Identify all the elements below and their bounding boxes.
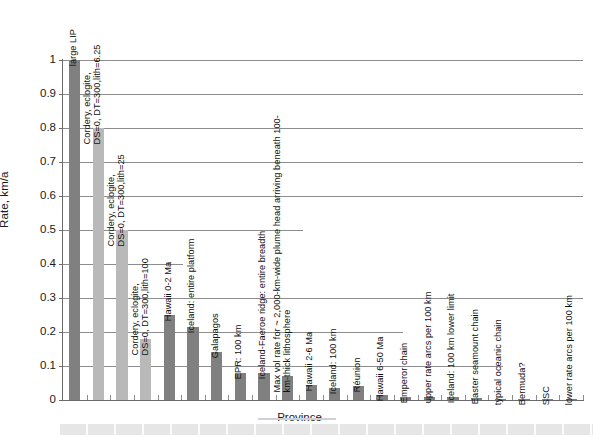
category-label: large LIP — [68, 29, 78, 66]
x-axis-separator — [110, 395, 111, 400]
x-axis-separator — [228, 395, 229, 400]
y-tick-label: 0.2 — [40, 326, 56, 338]
y-tick-mark — [59, 162, 63, 163]
category-label: Cordery, eclogite, DS=0, DT=300,lith=6.2… — [82, 44, 102, 144]
x-axis-separator — [465, 395, 466, 400]
x-axis-separator — [87, 395, 88, 400]
category-label: Bermuda? — [517, 362, 527, 405]
x-axis-separator — [205, 395, 206, 400]
y-tick-label: 0 — [50, 394, 56, 406]
category-label: Cordery, eclogite, DS=0, DT=300,lith=25 — [106, 154, 126, 246]
y-tick-label: 0.6 — [40, 190, 56, 202]
x-axis-separator — [418, 395, 419, 400]
x-axis-separator — [583, 395, 584, 400]
category-label: Galapagos — [210, 314, 220, 359]
category-label: Iceland: entire platform — [186, 238, 196, 333]
category-label: lower rate arcs per 100 km — [564, 295, 574, 405]
category-label: Hawaii 2-6 Ma — [304, 332, 314, 391]
x-axis-separator — [559, 395, 560, 400]
category-label: Iceland-Faeroe ridge: entire breadth — [257, 231, 267, 379]
plot-area: 00.10.20.30.40.50.60.70.80.91large LIPCo… — [63, 60, 583, 400]
y-tick-label: 0.9 — [40, 88, 56, 100]
y-tick-label: 1 — [50, 54, 56, 66]
y-tick-label: 0.4 — [40, 258, 56, 270]
x-axis-separator — [299, 395, 300, 400]
category-label: Iceland: 100 km lower limit — [446, 294, 456, 404]
y-tick-label: 0.8 — [40, 122, 56, 134]
gridline — [63, 196, 583, 197]
category-label: Emperor chain — [399, 343, 409, 403]
category-label: Hawaii 0-2 Ma — [162, 262, 172, 321]
gridline — [63, 94, 583, 95]
bar[interactable] — [69, 60, 80, 400]
x-axis-separator — [441, 395, 442, 400]
category-label: Easter seamount chain — [470, 309, 480, 404]
y-tick-mark — [59, 94, 63, 95]
banner-texture — [60, 424, 593, 435]
x-axis-separator — [536, 395, 537, 400]
x-axis-separator — [158, 395, 159, 400]
bottom-banner-strip — [60, 424, 593, 435]
category-label: Cordery, eclogite, DS=0, DT=300,lith=100 — [129, 258, 149, 355]
x-axis-line — [62, 400, 584, 401]
category-label: Max vol rate for ~ 2,000-km-wide plume h… — [271, 115, 291, 392]
x-axis-separator — [323, 395, 324, 400]
category-label: typical oceanic chain — [493, 319, 503, 405]
chart-figure: Rate, km/a 00.10.20.30.40.50.60.70.80.91… — [0, 0, 599, 439]
y-tick-mark — [59, 230, 63, 231]
y-tick-label: 0.3 — [40, 292, 56, 304]
y-tick-mark — [59, 366, 63, 367]
category-label: upper rate arcs per 100 km — [422, 292, 432, 404]
bar[interactable] — [211, 352, 222, 400]
category-label: EPR: 100 km — [233, 324, 243, 379]
y-tick-mark — [59, 60, 63, 61]
bar[interactable] — [187, 327, 198, 400]
x-axis-separator — [512, 395, 513, 400]
y-tick-label: 0.5 — [40, 224, 56, 236]
category-label: Hawaii 6-50 Ma — [375, 337, 385, 402]
gridline — [63, 60, 583, 61]
x-axis-separator — [394, 395, 395, 400]
x-axis-separator — [347, 395, 348, 400]
x-axis-title: Province — [0, 411, 599, 423]
y-tick-mark — [59, 332, 63, 333]
y-tick-mark — [59, 128, 63, 129]
category-label: Réunion — [351, 358, 361, 393]
category-label: SSC — [541, 386, 551, 405]
y-tick-mark — [59, 196, 63, 197]
y-tick-label: 0.1 — [40, 360, 56, 372]
gridline — [63, 128, 583, 129]
y-tick-label: 0.7 — [40, 156, 56, 168]
x-axis-separator — [276, 395, 277, 400]
x-axis-separator — [370, 395, 371, 400]
bar[interactable] — [93, 128, 104, 400]
banner-tick-mark — [258, 418, 336, 420]
x-axis-separator — [488, 395, 489, 400]
gridline — [63, 162, 583, 163]
y-tick-mark — [59, 400, 63, 401]
bar[interactable] — [116, 230, 127, 400]
y-tick-mark — [59, 298, 63, 299]
y-axis-title: Rate, km/a — [0, 171, 10, 228]
x-axis-separator — [181, 395, 182, 400]
bar[interactable] — [164, 315, 175, 400]
category-label: Iceland: 100 km — [328, 329, 338, 395]
x-axis-separator — [134, 395, 135, 400]
x-axis-separator — [252, 395, 253, 400]
y-tick-mark — [59, 264, 63, 265]
